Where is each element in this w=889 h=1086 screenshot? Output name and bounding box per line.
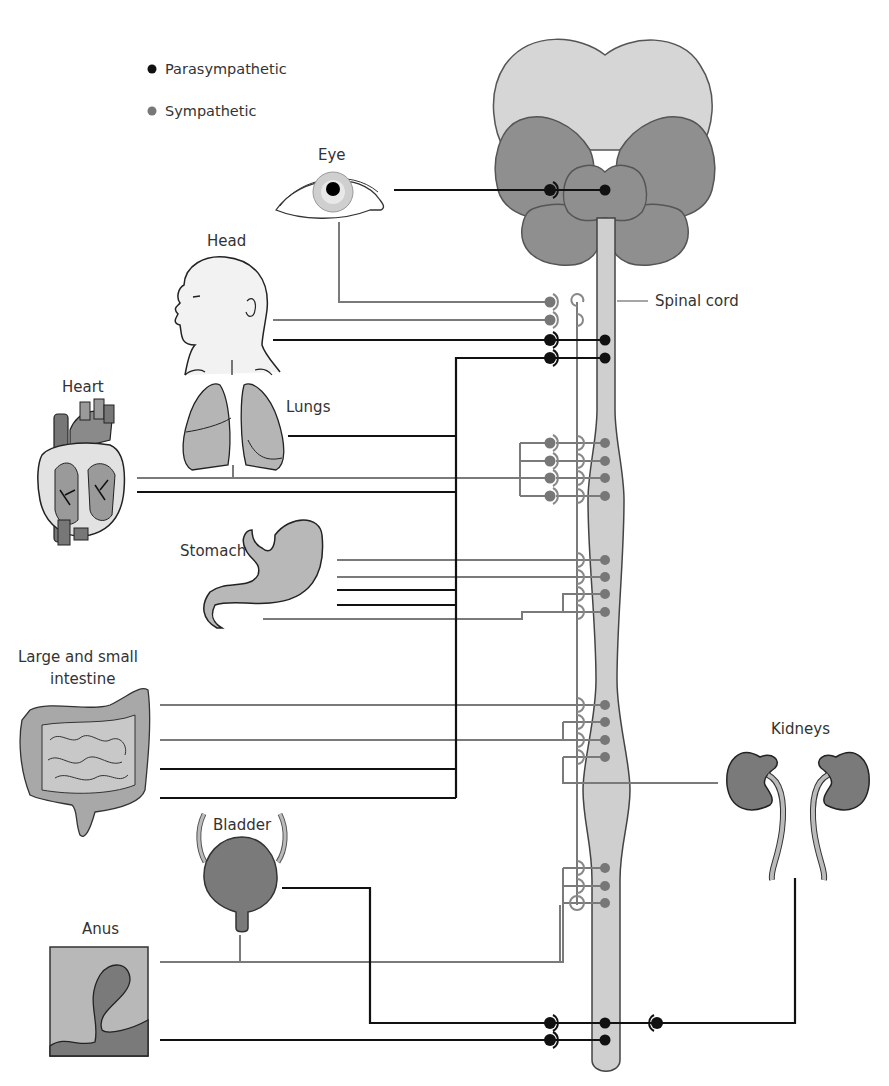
head-label: Head bbox=[207, 232, 246, 250]
spinal-cord-icon bbox=[583, 218, 630, 1071]
anus-icon bbox=[50, 947, 148, 1056]
legend-sympathetic-label: Sympathetic bbox=[165, 103, 257, 119]
kidneys-icon bbox=[727, 753, 869, 880]
lungs-icon bbox=[183, 360, 284, 470]
intestine-label-line1: Large and small bbox=[18, 648, 138, 666]
autonomic-nervous-system-diagram: Parasympathetic Sympathetic Spinal cord … bbox=[0, 0, 889, 1086]
head-icon bbox=[175, 257, 280, 375]
legend-parasympathetic-label: Parasympathetic bbox=[165, 61, 287, 77]
lungs-label: Lungs bbox=[286, 398, 331, 416]
anus-label: Anus bbox=[82, 920, 119, 938]
heart-label: Heart bbox=[62, 378, 104, 396]
stomach-icon bbox=[204, 520, 323, 628]
bladder-label: Bladder bbox=[213, 816, 272, 834]
legend: Parasympathetic Sympathetic bbox=[148, 61, 287, 119]
heart-icon bbox=[38, 399, 125, 545]
sympathetic-dot-icon bbox=[148, 107, 157, 116]
kidneys-label: Kidneys bbox=[771, 720, 830, 738]
spinal-cord-label: Spinal cord bbox=[655, 292, 739, 310]
stomach-label: Stomach bbox=[180, 542, 246, 560]
eye-label: Eye bbox=[318, 146, 346, 164]
intestine-icon bbox=[20, 689, 150, 837]
intestine-label-line2: intestine bbox=[50, 670, 115, 688]
eye-icon bbox=[276, 172, 384, 218]
parasympathetic-dot-icon bbox=[148, 65, 157, 74]
